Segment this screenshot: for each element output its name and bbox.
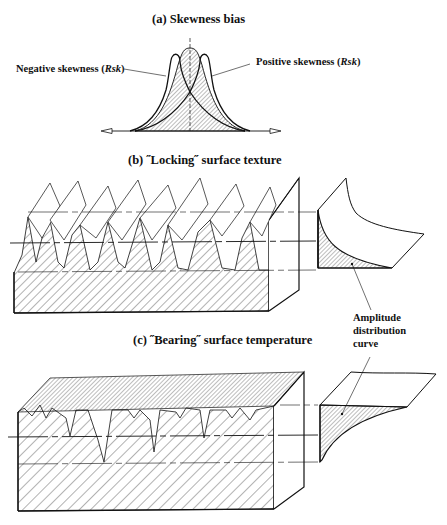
negative-leader-line (124, 69, 166, 76)
axis-arrow-right-icon (270, 129, 281, 134)
panel-a-title: (a) Skewness bias (152, 12, 245, 27)
axis-arrow-left-icon (101, 129, 112, 134)
positive-leader-line (212, 64, 250, 76)
locking-texture-block (10, 178, 316, 313)
bearing-texture-block (8, 372, 318, 511)
bearing-hatched-area (320, 405, 407, 462)
annotation-leader-upper (352, 264, 371, 310)
locking-distribution-curve (318, 178, 424, 310)
diagram-canvas (0, 0, 447, 525)
ridge-peaks (28, 178, 299, 240)
plateau-surface (18, 372, 304, 412)
panel-c-title: (c) ˝Bearing˝ surface temperature (133, 333, 312, 348)
positive-skewness-label: Positive skewness (Rsk) (256, 56, 360, 67)
negative-skewness-label: Negative skewness (Rsk) (16, 63, 125, 74)
skewness-plot (101, 38, 281, 134)
bearing-distribution-curve (320, 357, 436, 462)
panel-b-title: (b) ˝Locking˝ surface texture (128, 153, 282, 168)
block-front-face (18, 405, 274, 511)
block-front-face (14, 217, 269, 313)
amplitude-distribution-label: Amplitude distribution curve (353, 311, 406, 350)
